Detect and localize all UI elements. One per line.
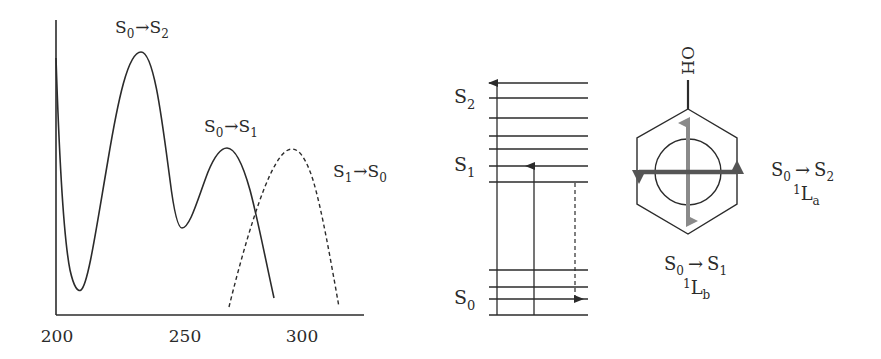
- figure-canvas: 200 250 300 S0→S2 S0→S1 S1→S0: [0, 0, 881, 359]
- annotation-s1-s0: S1→S0: [333, 161, 387, 185]
- oh-group-label: OH: [678, 46, 698, 75]
- x-tick-label: 300: [286, 326, 318, 346]
- transition-label-lb: S0→S1: [664, 253, 727, 278]
- x-tick-label: 200: [41, 326, 73, 346]
- x-tick-label: 250: [169, 326, 201, 346]
- absorption-curve: [56, 52, 274, 298]
- phenol-molecule: OH S0→S2 1La S0→S1 1Lb: [637, 46, 834, 302]
- transition-label-la: S0→S2: [771, 159, 834, 184]
- emission-curve: [229, 149, 339, 307]
- spectrum-panel: 200 250 300 S0→S2 S0→S1 S1→S0: [41, 17, 387, 346]
- energy-diagram: S2 S1 S0: [454, 83, 588, 315]
- level-label-s2: S2: [454, 85, 475, 112]
- annotation-s0-s1: S0→S1: [204, 116, 258, 140]
- annotation-s0-s2: S0→S2: [115, 17, 169, 41]
- level-label-s1: S1: [454, 153, 475, 180]
- level-label-s0: S0: [454, 286, 475, 313]
- band-label-lb: 1Lb: [683, 277, 711, 302]
- band-label-la: 1La: [793, 183, 820, 208]
